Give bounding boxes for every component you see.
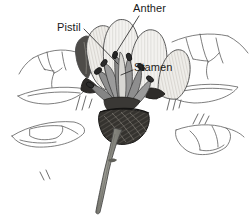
flower-anatomy-diagram: Anther Pistil Stamen (0, 0, 252, 223)
label-anther: Anther (133, 3, 166, 14)
label-stamen: Stamen (134, 62, 173, 73)
label-pistil: Pistil (57, 22, 81, 33)
diagram-canvas (0, 0, 252, 223)
